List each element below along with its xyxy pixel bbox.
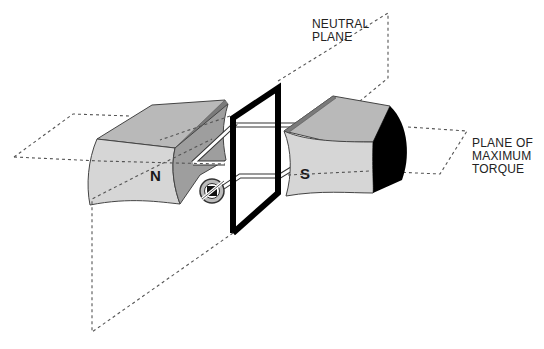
armature-coil — [233, 88, 278, 233]
neutral-plane-label-line2: PLANE — [312, 31, 369, 44]
north-pole-label: N — [150, 167, 161, 184]
max-torque-label-line3: TORQUE — [472, 163, 533, 176]
commutator — [200, 179, 224, 203]
max-torque-plane-label: PLANE OF MAXIMUM TORQUE — [472, 137, 533, 176]
diagram-canvas: N — [0, 0, 544, 349]
south-magnet: S — [284, 96, 407, 196]
neutral-plane-label: NEUTRAL PLANE — [312, 18, 369, 44]
motor-diagram: N — [0, 0, 544, 349]
